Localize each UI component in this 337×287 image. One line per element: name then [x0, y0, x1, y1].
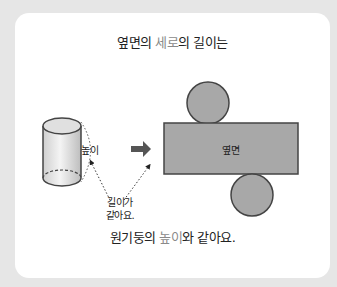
dotted-arrow-right [124, 166, 149, 200]
same-length-line2: 같아요. [100, 209, 140, 222]
side-face-label: 옆면 [191, 142, 271, 157]
footer-part2: 와 같아요. [182, 230, 235, 245]
dotted-arrow-left [91, 162, 110, 200]
footer-part1: 원기둥의 [110, 230, 160, 245]
top-base-circle [187, 82, 229, 124]
same-length-label: 길이가 같아요. [100, 196, 140, 222]
cylinder-icon [43, 118, 81, 186]
footer-highlight: 높이 [159, 230, 182, 245]
right-arrow-icon [131, 141, 151, 157]
conclusion-text: 원기둥의 높이와 같아요. [15, 227, 330, 246]
bottom-base-circle [231, 174, 273, 216]
height-label: 높이 [81, 144, 98, 157]
same-length-line1: 길이가 [100, 196, 140, 209]
